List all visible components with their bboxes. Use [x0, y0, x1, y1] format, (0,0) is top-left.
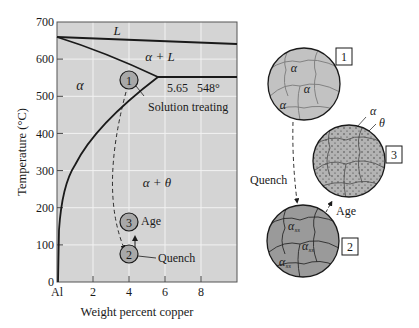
svg-text:Al: Al: [51, 285, 64, 299]
svg-text:300: 300: [36, 164, 54, 178]
svg-text:200: 200: [36, 201, 54, 215]
age-label-micro: Age: [336, 204, 356, 218]
svg-text:400: 400: [36, 127, 54, 141]
microstructure-1: α α α: [268, 48, 340, 120]
microstructure-3: [313, 125, 386, 198]
age-arrow-micro: [326, 203, 331, 212]
stage-box-3-label: 3: [391, 148, 397, 162]
alpha-label-3: α: [370, 104, 377, 118]
age-label: Age: [141, 214, 161, 228]
svg-text:700: 700: [36, 15, 54, 29]
stage-box-2-label: 2: [347, 240, 353, 254]
svg-text:4: 4: [126, 285, 132, 299]
microstructure-2: αss αss αss: [267, 205, 340, 278]
region-label-alpha-theta: α + θ: [143, 175, 172, 190]
x-axis-title: Weight percent copper: [81, 305, 195, 319]
alpha-label-1b: α: [304, 82, 311, 96]
alpha-label-1a: α: [291, 61, 298, 75]
y-axis-title: Temperature (°C): [15, 108, 29, 196]
svg-text:6: 6: [162, 285, 168, 299]
point-2-marker: 2: [120, 245, 138, 263]
quench-label: Quench: [158, 251, 195, 265]
eutectic-composition: 5.65: [167, 81, 188, 95]
svg-text:8: 8: [198, 285, 204, 299]
point-3-marker: 3: [120, 213, 138, 231]
plot-area: 1 3 2 L α + L α α + θ 5.65 548° Solution…: [57, 22, 237, 282]
theta-leader-3: [369, 124, 376, 131]
quench-label-micro: Quench: [250, 173, 287, 187]
svg-text:100: 100: [36, 238, 54, 252]
svg-text:500: 500: [36, 89, 54, 103]
svg-text:1: 1: [126, 74, 132, 88]
eutectic-temperature: 548°: [197, 81, 220, 95]
region-label-liquid: L: [112, 23, 120, 38]
alpha-label-1c: α: [280, 98, 287, 112]
phase-diagram-figure: 1 3 2 L α + L α α + θ 5.65 548° Solution…: [0, 0, 419, 328]
quench-arrow-micro: [293, 122, 297, 201]
svg-text:3: 3: [126, 216, 132, 230]
alpha-leader-3: [357, 117, 366, 127]
svg-text:2: 2: [90, 285, 96, 299]
point-1-marker: 1: [120, 71, 138, 89]
svg-text:600: 600: [36, 52, 54, 66]
x-axis-tick-labels: Al 2 4 6 8: [51, 285, 204, 299]
theta-label-3: θ: [379, 116, 385, 130]
stage-box-1-label: 1: [341, 50, 347, 64]
solution-treating-label: Solution treating: [148, 100, 228, 114]
svg-text:2: 2: [126, 248, 132, 262]
region-label-alpha: α: [76, 78, 84, 93]
region-label-alpha-liquid: α + L: [145, 49, 174, 64]
y-axis-tick-labels: 700 600 500 400 300 200 100 0: [36, 15, 54, 289]
